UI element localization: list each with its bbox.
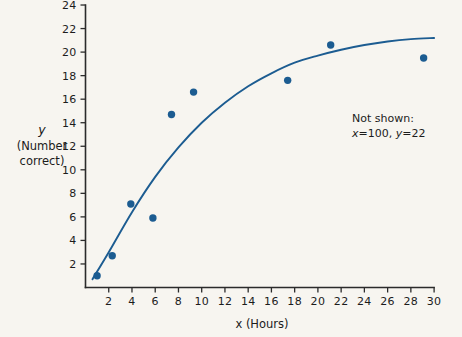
y-tick-label: 6	[69, 211, 76, 224]
x-tick-label: 8	[175, 295, 182, 308]
x-tick-label: 26	[380, 295, 395, 308]
y-tick-label: 14	[62, 117, 77, 130]
data-point	[149, 214, 156, 221]
y-tick-label: 2	[69, 258, 76, 271]
data-point	[284, 77, 291, 84]
y-tick-label: 22	[62, 23, 77, 36]
y-tick-label: 20	[62, 46, 77, 59]
data-point	[93, 272, 100, 279]
x-tick-label: 6	[152, 295, 159, 308]
y-tick-label: 24	[62, 0, 77, 12]
data-point	[327, 41, 334, 48]
annotation-line2: x=100, y=22	[351, 127, 425, 140]
scatter-chart: 24681012141618202224 2468101214161820222…	[0, 0, 462, 337]
x-tick-label: 16	[264, 295, 279, 308]
y-tick-label: 16	[62, 93, 77, 106]
annotation-line1: Not shown:	[352, 112, 414, 125]
x-tick-label: 10	[194, 295, 209, 308]
y-axis-title-line1: y	[37, 122, 46, 137]
x-tick-label: 12	[218, 295, 233, 308]
data-point	[127, 200, 134, 207]
x-axis-tick-labels: 24681012141618202224262830	[105, 295, 441, 308]
y-tick-label: 8	[69, 187, 76, 200]
data-point	[190, 88, 197, 95]
annotation-eq2: =22	[402, 127, 425, 140]
x-tick-label: 14	[241, 295, 256, 308]
x-tick-label: 30	[427, 295, 442, 308]
x-tick-label: 28	[404, 295, 419, 308]
y-axis-title-line2: (Number	[17, 139, 68, 153]
y-tick-label: 4	[69, 234, 76, 247]
data-point	[109, 252, 116, 259]
x-tick-label: 24	[357, 295, 372, 308]
annotation-eq1: =100,	[359, 127, 393, 140]
x-tick-label: 20	[311, 295, 326, 308]
x-axis-title: x (Hours)	[235, 317, 288, 331]
x-tick-label: 18	[287, 295, 302, 308]
data-point	[168, 111, 175, 118]
y-axis-title-line3: correct)	[20, 154, 65, 168]
data-point	[420, 54, 427, 61]
x-tick-label: 2	[105, 295, 112, 308]
y-tick-label: 18	[62, 70, 77, 83]
x-tick-label: 22	[334, 295, 349, 308]
x-tick-label: 4	[128, 295, 135, 308]
